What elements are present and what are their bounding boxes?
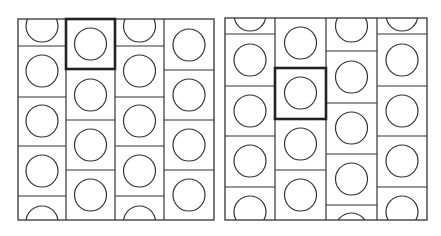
circle-icon xyxy=(285,179,317,211)
circle-icon xyxy=(336,112,368,144)
right-panel xyxy=(225,0,427,236)
circle-icon xyxy=(26,10,58,42)
circle-icon xyxy=(234,196,266,228)
circle-icon xyxy=(386,95,418,127)
circle-icon xyxy=(26,206,58,236)
circle-icon xyxy=(173,79,205,111)
circle-icon xyxy=(386,44,418,76)
circle-icon xyxy=(173,179,205,211)
circle-icon xyxy=(234,95,266,127)
circle-icon xyxy=(75,179,107,211)
circle-icon xyxy=(26,105,58,137)
circle-icon xyxy=(234,44,266,76)
circle-icon xyxy=(285,128,317,160)
circle-icon xyxy=(336,213,368,236)
circle-icon xyxy=(234,145,266,177)
circle-icon xyxy=(285,77,317,109)
circle-icon xyxy=(336,10,368,42)
circle-icon xyxy=(285,27,317,59)
circle-icon xyxy=(386,145,418,177)
left-panel xyxy=(18,10,214,236)
circle-icon xyxy=(26,55,58,87)
circle-icon xyxy=(173,29,205,61)
circle-icon xyxy=(173,129,205,161)
highlighted-unit-cell xyxy=(275,68,326,119)
circle-icon xyxy=(124,55,156,87)
circle-icon xyxy=(26,155,58,187)
circle-icon xyxy=(124,155,156,187)
circle-icon xyxy=(234,0,266,31)
circle-icon xyxy=(386,196,418,228)
circle-icon xyxy=(336,61,368,93)
circle-icon xyxy=(124,105,156,137)
lattice-figure xyxy=(0,0,441,236)
circle-icon xyxy=(124,206,156,236)
highlighted-unit-cell xyxy=(66,19,115,69)
circle-icon xyxy=(386,0,418,31)
circle-icon xyxy=(124,10,156,42)
circle-icon xyxy=(336,163,368,195)
circle-icon xyxy=(75,28,107,60)
circle-icon xyxy=(75,79,107,111)
circle-icon xyxy=(75,129,107,161)
